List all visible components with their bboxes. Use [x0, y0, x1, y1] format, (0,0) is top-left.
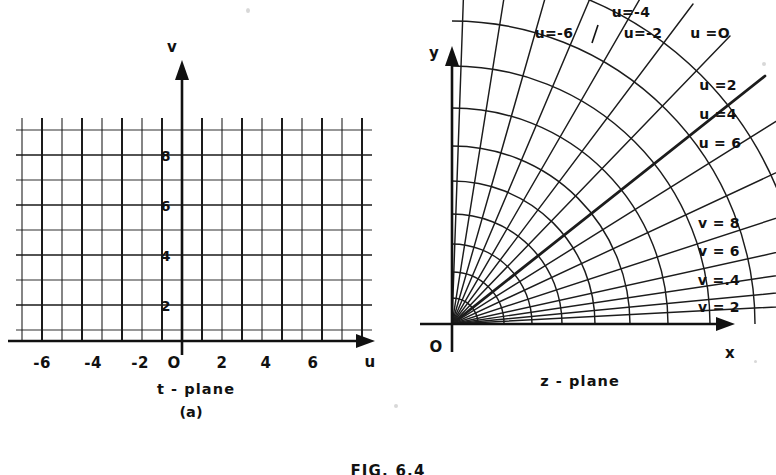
- z-plane-name-label: z - plane: [540, 373, 620, 389]
- scan-speck: [754, 360, 757, 363]
- t-plane-grid-lines: [16, 118, 372, 341]
- t-plane-xtick-4: 4: [261, 354, 272, 372]
- z-label-u--4-leader: [592, 25, 598, 43]
- z-label-v-4: v =.4: [698, 272, 740, 288]
- scan-speck: [762, 62, 766, 66]
- t-plane-u-axis: [8, 334, 375, 348]
- z-label-v-6: v = 6: [698, 243, 740, 259]
- t-plane-xtick-6: 6: [308, 354, 319, 372]
- panel-a-caption: (a): [146, 404, 236, 420]
- t-plane-plot: v u -6 -4 -2 O 2 4 6 2 4 6 8 t - plane: [0, 0, 388, 400]
- t-grid-horizontal-minor: [16, 130, 372, 330]
- t-plane-v-axis-label: v: [167, 38, 177, 56]
- z-plane-x-axis-label: x: [725, 344, 735, 362]
- z-label-u-4: u =4: [699, 106, 737, 122]
- t-plane-xtick--2: -2: [131, 354, 148, 372]
- t-plane-origin-label: O: [167, 354, 180, 372]
- z-plane-y-axis-label: y: [429, 44, 439, 62]
- panel-z-plane: y x O z - plane u=-4 u=-6 u=-2 u =O u =2…: [388, 0, 776, 475]
- t-plane-xtick-2: 2: [217, 354, 228, 372]
- z-label-u-2: u =2: [699, 77, 737, 93]
- t-plane-v-axis: [175, 60, 189, 355]
- scan-speck: [394, 404, 398, 408]
- t-plane-ytick-4: 4: [161, 248, 171, 264]
- z-label-u--4: u=-4: [612, 4, 650, 20]
- z-label-u-0: u =O: [690, 25, 730, 41]
- scan-speck: [246, 8, 250, 13]
- t-plane-ytick-2: 2: [161, 298, 171, 314]
- z-label-u--2: u=-2: [624, 25, 662, 41]
- t-plane-xtick--6: -6: [33, 354, 50, 372]
- z-plane-origin-label: O: [429, 338, 442, 356]
- t-plane-ytick-6: 6: [161, 198, 171, 214]
- figure-container: v u -6 -4 -2 O 2 4 6 2 4 6 8 t - plane (…: [0, 0, 776, 475]
- t-plane-xtick--4: -4: [84, 354, 101, 372]
- z-label-v-8: v = 8: [698, 215, 740, 231]
- figure-number: FIG. 6.4: [0, 462, 776, 475]
- z-plane-plot: y x O z - plane u=-4 u=-6 u=-2 u =O u =2…: [388, 0, 776, 400]
- z-label-u-6: u = 6: [699, 135, 742, 151]
- z-label-u--6: u=-6: [535, 25, 573, 41]
- z-grid-rays-u-const: [452, 0, 730, 324]
- panel-t-plane: v u -6 -4 -2 O 2 4 6 2 4 6 8 t - plane (…: [0, 0, 388, 475]
- t-plane-name-label: t - plane: [157, 381, 235, 397]
- t-plane-u-axis-label: u: [364, 353, 375, 371]
- z-label-v-2: v = 2: [698, 299, 740, 315]
- t-plane-ytick-8: 8: [161, 148, 171, 164]
